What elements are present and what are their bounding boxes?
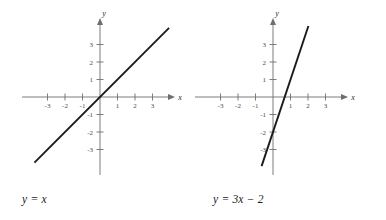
y-ticklabel-neg2-right: -2 — [260, 129, 266, 137]
graph-left: -3 -2 -1 1 2 3 3 2 1 -1 -2 -3 x y — [0, 0, 193, 182]
y-ticklabel-neg3-left: -3 — [87, 146, 93, 154]
y-ticklabel-neg2-left: -2 — [87, 129, 93, 137]
y-ticklabel-3-left: 3 — [90, 41, 94, 49]
panel-left-y-equals-x: -3 -2 -1 1 2 3 3 2 1 -1 -2 -3 x y y = x — [0, 0, 193, 220]
caption-right-equation: y = 3x − 2 — [213, 194, 264, 206]
y-ticklabel-neg1-left: -1 — [87, 111, 93, 119]
line-y-equals-3x-minus-2 — [262, 26, 309, 166]
line-y-equals-x — [34, 28, 169, 163]
x-ticklabel-neg2-right: -2 — [235, 102, 241, 110]
x-axis-arrowhead-left — [168, 94, 175, 100]
x-axis-arrowhead-right — [341, 94, 348, 100]
graph-right: -3 -2 -1 1 2 3 3 2 1 -1 -2 -3 x y — [193, 0, 386, 182]
y-axis-label-left: y — [101, 9, 106, 18]
y-axis-arrowhead-left — [97, 18, 103, 25]
y-ticklabel-1-right: 1 — [263, 76, 267, 84]
y-ticklabel-neg1-right: -1 — [260, 111, 266, 119]
x-ticklabel-neg1-left: -1 — [80, 102, 86, 110]
x-ticklabel-2-left: 2 — [133, 102, 137, 110]
x-ticklabel-neg2-left: -2 — [62, 102, 68, 110]
x-ticklabel-1-right: 1 — [289, 102, 293, 110]
panel-right-y-equals-3x-minus-2: -3 -2 -1 1 2 3 3 2 1 -1 -2 -3 x y y = 3x… — [193, 0, 386, 220]
y-ticklabel-2-left: 2 — [90, 59, 94, 67]
caption-left-equation: y = x — [22, 194, 47, 206]
x-ticklabel-neg3-right: -3 — [218, 102, 224, 110]
y-axis-arrowhead-right — [270, 18, 276, 25]
y-ticklabel-2-right: 2 — [263, 59, 267, 67]
y-ticklabel-1-left: 1 — [90, 76, 94, 84]
x-ticklabel-1-left: 1 — [116, 102, 120, 110]
x-axis-label-right: x — [350, 93, 355, 102]
figure-two-linear-graphs: -3 -2 -1 1 2 3 3 2 1 -1 -2 -3 x y y = x — [0, 0, 386, 220]
x-ticklabel-3-right: 3 — [324, 102, 328, 110]
x-ticklabel-neg1-right: -1 — [253, 102, 259, 110]
x-ticklabel-neg3-left: -3 — [45, 102, 51, 110]
x-ticklabel-2-right: 2 — [306, 102, 310, 110]
x-ticklabel-3-left: 3 — [151, 102, 155, 110]
y-axis-label-right: y — [274, 9, 279, 18]
y-ticklabel-3-right: 3 — [263, 41, 267, 49]
x-axis-label-left: x — [177, 93, 182, 102]
